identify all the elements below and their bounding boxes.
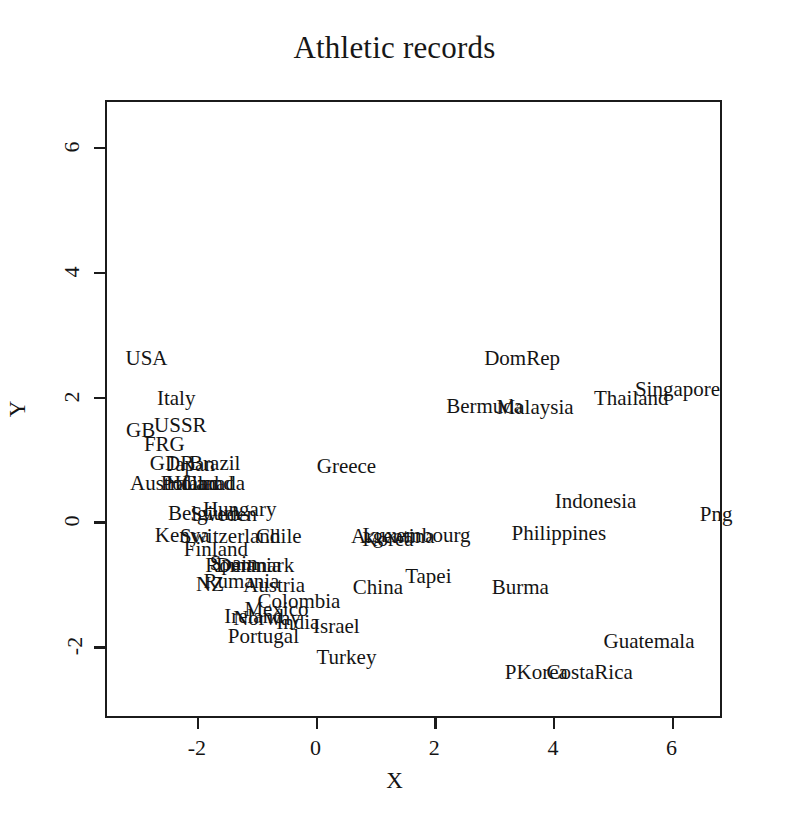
- data-point-label: Hungary: [203, 498, 276, 519]
- y-axis-tick: [94, 272, 105, 275]
- plot-data-area: USAItalyGBUSSRFRGGDRJapanBrazilAustralia…: [105, 100, 722, 718]
- x-axis-tick-label: 6: [666, 735, 677, 761]
- y-axis-tick: [94, 646, 105, 649]
- chart-title: Athletic records: [0, 30, 789, 66]
- x-axis-tick-label: 4: [547, 735, 558, 761]
- x-axis-tick: [434, 718, 437, 729]
- x-axis-tick: [197, 718, 200, 729]
- data-point-label: Israel: [313, 616, 360, 637]
- data-point-label: Chile: [256, 526, 302, 547]
- y-axis-tick-label: 2: [59, 391, 85, 402]
- y-axis-tick-label: -2: [62, 637, 88, 655]
- x-axis-tick-label: -2: [188, 735, 206, 761]
- data-point-label: Burma: [492, 576, 549, 597]
- data-point-label: CostaRica: [547, 662, 633, 683]
- data-point-label: Tapei: [405, 566, 451, 587]
- data-point-label: Indonesia: [555, 491, 637, 512]
- data-point-label: Philippines: [512, 522, 607, 543]
- y-axis-tick: [94, 521, 105, 524]
- data-point-label: Guatemala: [604, 631, 695, 652]
- data-point-label: Portugal: [228, 625, 299, 646]
- data-point-label: DomRep: [484, 347, 560, 368]
- x-axis-tick-label: 0: [310, 735, 321, 761]
- scatter-plot-figure: Athletic records USAItalyGBUSSRFRGGDRJap…: [0, 0, 789, 837]
- x-axis-tick: [672, 718, 675, 729]
- y-axis-tick: [94, 397, 105, 400]
- y-axis-tick-label: 6: [59, 141, 85, 152]
- x-axis-tick-label: 2: [429, 735, 440, 761]
- data-point-label: Italy: [157, 388, 195, 409]
- x-axis-tick: [553, 718, 556, 729]
- data-point-label: Malaysia: [497, 397, 574, 418]
- data-point-label: Png: [700, 503, 733, 524]
- y-axis-title: Y: [5, 401, 31, 418]
- data-point-label: USA: [126, 347, 168, 368]
- x-axis-tick: [316, 718, 319, 729]
- data-point-label: Turkey: [317, 647, 377, 668]
- y-axis-tick-label: 0: [59, 516, 85, 527]
- data-point-label: China: [353, 576, 403, 597]
- y-axis-tick: [94, 147, 105, 150]
- data-point-label: Canada: [182, 472, 245, 493]
- data-point-label: Greece: [317, 456, 376, 477]
- data-point-label: Thailand: [594, 387, 669, 408]
- y-axis-tick-label: 4: [59, 266, 85, 277]
- x-axis-title: X: [0, 768, 789, 794]
- data-point-label: Luxembourg: [362, 525, 470, 546]
